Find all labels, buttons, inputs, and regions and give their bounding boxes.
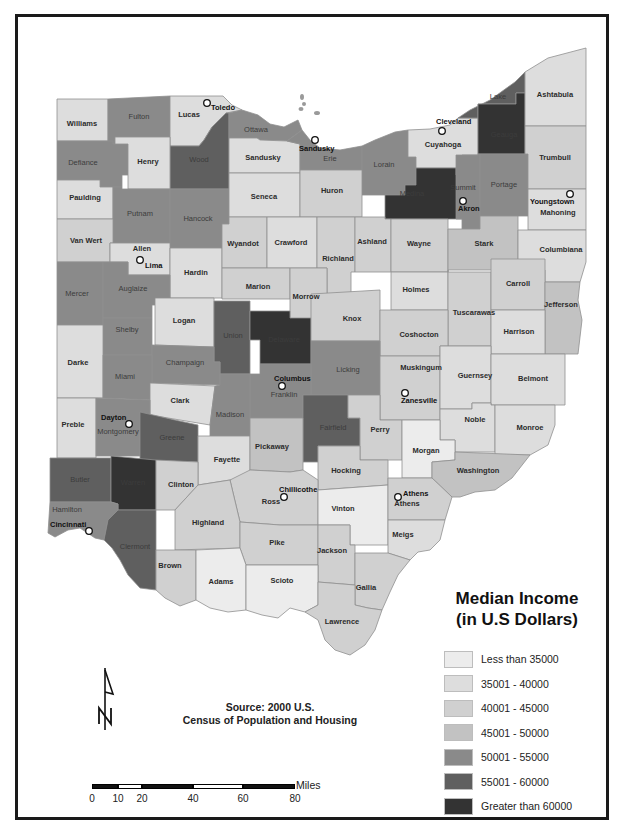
county-label: Erie [323, 154, 336, 163]
city-marker-icon [279, 383, 286, 390]
county-label: Wyandot [227, 239, 259, 248]
city-label: Sandusky [299, 144, 335, 153]
city-marker-icon [281, 494, 288, 501]
legend-item: 40001 - 45000 [430, 696, 610, 721]
city-label: Dayton [101, 413, 127, 422]
county-label: Guernsey [458, 371, 493, 380]
legend-item: Greater than 60000 [430, 794, 610, 819]
county-label: Logan [173, 316, 196, 325]
source-line-1: Source: 2000 U.S. [150, 701, 390, 714]
legend-items: Less than 35000 35001 - 40000 40001 - 45… [430, 647, 610, 819]
county-label: Miami [115, 372, 135, 381]
county-label: Pickaway [255, 442, 290, 451]
city-label: Akron [458, 204, 480, 213]
county-label: Belmont [518, 374, 549, 383]
county-label: Hocking [331, 466, 361, 475]
county-meigs[interactable] [388, 520, 445, 560]
source-note: Source: 2000 U.S. Census of Population a… [150, 701, 390, 727]
scale-tick-60: 60 [237, 793, 248, 804]
county-ashtabula[interactable] [525, 48, 586, 126]
county-label: Lawrence [325, 617, 360, 626]
county-jackson[interactable] [318, 525, 355, 585]
county-label: Van Wert [70, 236, 102, 245]
legend-label: 50001 - 55000 [481, 751, 549, 763]
scale-seg-1 [92, 784, 118, 789]
legend-title: Median Income (in U.S Dollars) [424, 588, 610, 630]
legend-label: Less than 35000 [481, 653, 559, 665]
city-marker-icon [439, 128, 446, 135]
city-marker-icon [137, 257, 144, 264]
scale-tick-10: 10 [112, 793, 123, 804]
county-label: Mercer [65, 289, 89, 298]
county-label: Vinton [331, 504, 355, 513]
scale-unit: Miles [296, 779, 321, 791]
county-label: Seneca [251, 192, 278, 201]
legend-title-line-1: Median Income [424, 588, 610, 609]
county-label: Hardin [184, 268, 208, 277]
scale-tick-0: 0 [89, 793, 95, 804]
county-label: Fulton [129, 112, 150, 121]
legend-title-line-2: (in U.S Dollars) [424, 609, 610, 630]
city-marker-icon [204, 100, 211, 107]
county-label: Delaware [268, 335, 300, 344]
lake-erie-islands [299, 94, 321, 115]
county-label: Geauga [491, 130, 519, 139]
county-label: Pike [269, 538, 284, 547]
county-label: Madison [216, 410, 244, 419]
county-label: Tuscarawas [453, 308, 495, 317]
legend-swatch [444, 724, 473, 741]
legend-item: 35001 - 40000 [430, 672, 610, 697]
county-label: Lorain [374, 160, 395, 169]
county-label: Columbiana [540, 245, 584, 254]
county-label: Holmes [402, 285, 429, 294]
county-label: Clermont [120, 542, 151, 551]
county-label: Licking [336, 365, 359, 374]
legend-label: 40001 - 45000 [481, 702, 549, 714]
county-label: Carroll [506, 279, 530, 288]
city-label: Toledo [211, 103, 235, 112]
legend-label: Greater than 60000 [481, 800, 572, 812]
legend-label: 45001 - 50000 [481, 727, 549, 739]
county-gallia[interactable] [355, 553, 410, 610]
county-label: Gallia [356, 583, 377, 592]
county-label: Summit [450, 183, 476, 192]
county-label: Jackson [317, 546, 347, 555]
county-label: Portage [491, 180, 517, 189]
county-scioto[interactable] [246, 565, 318, 618]
county-label: Stark [475, 239, 495, 248]
county-label: Fayette [214, 455, 240, 464]
county-label: Meigs [392, 530, 413, 539]
county-label: Hancock [183, 214, 212, 223]
legend-swatch [444, 749, 473, 766]
county-label: Monroe [516, 423, 543, 432]
county-label: Morgan [412, 446, 440, 455]
county-label: Washington [457, 466, 500, 475]
source-line-2: Census of Population and Housing [150, 714, 390, 727]
scale-seg-2 [118, 784, 142, 789]
city-label: Chillicothe [279, 485, 317, 494]
county-label: Lake [490, 92, 506, 101]
county-label: Medina [400, 189, 425, 198]
county-label: Ashland [357, 237, 387, 246]
city-marker-icon [126, 421, 133, 428]
county-label: Putnam [127, 209, 153, 218]
legend-swatch [444, 700, 473, 717]
city-label: Lima [145, 261, 163, 270]
county-jefferson[interactable] [545, 282, 582, 354]
county-label: Preble [62, 420, 85, 429]
legend-item: 45001 - 50000 [430, 721, 610, 746]
city-marker-icon [312, 137, 319, 144]
county-shelby[interactable] [103, 318, 152, 355]
county-label: Huron [321, 186, 343, 195]
city-label: Youngstown [530, 197, 575, 206]
county-label: Shelby [116, 325, 139, 334]
county-brown[interactable] [156, 550, 196, 606]
city-marker-icon [86, 528, 93, 535]
scale-seg-4 [193, 784, 243, 789]
county-label: Trumbull [539, 153, 571, 162]
county-label: Morrow [292, 292, 319, 301]
legend-swatch [444, 798, 473, 815]
county-label: Sandusky [245, 153, 281, 162]
county-label: Darke [68, 358, 89, 367]
legend-item: 50001 - 55000 [430, 745, 610, 770]
